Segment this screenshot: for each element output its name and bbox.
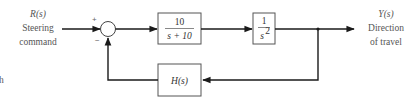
input-label: R(s) Steering command: [19, 9, 57, 47]
minus-sign: −: [95, 36, 100, 45]
output-symbol: Y(s): [378, 9, 393, 20]
feedback-path-out: [108, 38, 158, 80]
plant-denominator-exp: 2: [265, 26, 270, 36]
input-line2: command: [19, 37, 57, 47]
feedback-block: H(s): [158, 64, 201, 96]
block-diagram: R(s) Steering command h + − 10 s + 10 1 …: [0, 0, 414, 98]
controller-numerator: 10: [175, 17, 185, 27]
output-line1: Direction: [368, 23, 404, 33]
plant-block: 1 s 2: [253, 13, 275, 44]
input-line1: Steering: [22, 23, 54, 33]
edge-mark: h: [0, 75, 4, 85]
controller-denominator: s + 10: [167, 31, 192, 41]
output-line2: of travel: [370, 37, 402, 47]
controller-block: 10 s + 10: [158, 13, 201, 44]
output-label: Y(s) Direction of travel: [368, 9, 404, 47]
input-symbol: R(s): [29, 9, 46, 20]
plant-denominator-base: s: [260, 31, 264, 41]
summing-junction: [101, 22, 116, 37]
plus-sign: +: [92, 15, 97, 24]
feedback-label: H(s): [170, 76, 188, 87]
plant-numerator: 1: [262, 16, 267, 26]
